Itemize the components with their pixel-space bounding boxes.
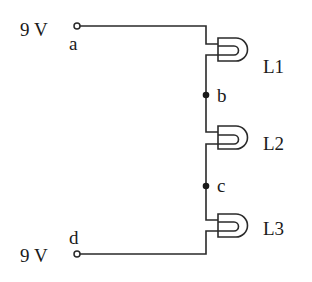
lamp-l2: L2 <box>218 126 284 154</box>
lamp-l3: L3 <box>218 214 284 239</box>
wire-a-l1 <box>80 26 218 44</box>
terminal-a-voltage-label: 9 V <box>20 19 48 40</box>
node-label-c: c <box>217 175 225 196</box>
lamp-l3-label: L3 <box>263 218 284 239</box>
node-label-d: d <box>69 227 79 248</box>
node-label-a: a <box>69 33 78 54</box>
terminal-d: 9 V d <box>20 227 80 266</box>
wires <box>80 26 218 254</box>
wire-l3-d <box>80 231 218 254</box>
lamp-l1-label: L1 <box>263 56 284 77</box>
terminal-d-voltage-label: 9 V <box>20 245 48 266</box>
lamp-l1: L1 <box>218 38 284 77</box>
lamp-l3-outer-icon <box>218 214 248 237</box>
circuit-diagram: 9 V a 9 V d b c L1 L2 L3 <box>0 0 312 282</box>
terminal-d-circle-icon <box>74 251 80 257</box>
lamp-l2-outer-icon <box>218 126 248 149</box>
terminal-a: 9 V a <box>20 19 80 54</box>
node-c-dot-icon <box>203 183 210 190</box>
node-label-b: b <box>217 85 227 106</box>
terminal-a-circle-icon <box>74 23 80 29</box>
lamp-l2-label: L2 <box>263 133 284 154</box>
lamp-l1-outer-icon <box>218 38 248 61</box>
node-b-dot-icon <box>203 92 210 99</box>
